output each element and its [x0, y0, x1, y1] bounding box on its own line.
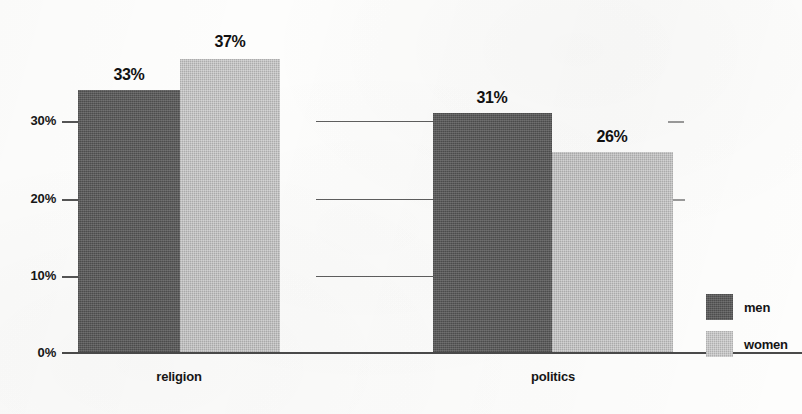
category-label-politics: politics — [493, 369, 613, 384]
right-tick-mark-20 — [673, 199, 685, 201]
ytick-label-20: 20% — [8, 191, 56, 206]
ytick-label-10: 10% — [8, 268, 56, 283]
value-label-religion-women: 37% — [190, 33, 270, 51]
ytick-label-0: 0% — [8, 345, 56, 360]
value-label-politics-women: 26% — [572, 128, 652, 146]
bar-politics-men[interactable] — [433, 113, 552, 353]
gridline-30 — [316, 121, 434, 122]
ytick-mark-10 — [62, 276, 78, 278]
ytick-label-30: 30% — [8, 113, 56, 128]
plot-area: 30% 20% 10% 0% 33% 37% 31% 26% religion … — [0, 0, 802, 414]
legend-label-women: women — [744, 337, 788, 352]
ytick-mark-20 — [62, 199, 78, 201]
gridline-10 — [316, 276, 434, 277]
bar-politics-women[interactable] — [552, 152, 673, 353]
legend-label-men: men — [744, 300, 770, 315]
right-tick-mark-30 — [668, 121, 684, 123]
legend-swatch-women[interactable] — [706, 331, 733, 357]
chart-page: 30% 20% 10% 0% 33% 37% 31% 26% religion … — [0, 0, 802, 414]
value-label-politics-men: 31% — [452, 89, 532, 107]
bar-religion-women[interactable] — [180, 59, 280, 353]
legend-swatch-men[interactable] — [706, 294, 733, 320]
x-axis-baseline — [62, 352, 802, 354]
bar-religion-men[interactable] — [78, 90, 180, 353]
gridline-20 — [316, 199, 434, 200]
ytick-mark-30 — [62, 121, 78, 123]
category-label-religion: religion — [119, 369, 239, 384]
value-label-religion-men: 33% — [89, 66, 169, 84]
